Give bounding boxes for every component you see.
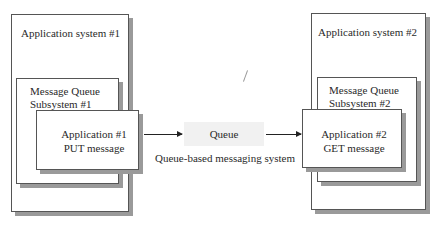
messaging-diagram: Application system #1 Message Queue Subs… [0, 0, 439, 227]
queue-label: Queue [184, 128, 264, 141]
stray-mark [243, 70, 248, 82]
put-arrow [144, 134, 182, 135]
queue-caption: Queue-based messaging system [150, 152, 300, 165]
application-1-label-line2: PUT message [46, 142, 142, 155]
application-system-1-title: Application system #1 [21, 27, 120, 40]
subsystem-1-label-line1: Message Queue [30, 85, 100, 98]
application-1-label-line1: Application #1 [46, 128, 142, 141]
application-system-2-title: Application system #2 [318, 26, 417, 39]
application-2-label-line1: Application #2 [306, 128, 402, 141]
subsystem-2-label-line1: Message Queue [329, 84, 399, 97]
get-arrow [266, 134, 301, 135]
application-2-label-line2: GET message [306, 142, 402, 155]
